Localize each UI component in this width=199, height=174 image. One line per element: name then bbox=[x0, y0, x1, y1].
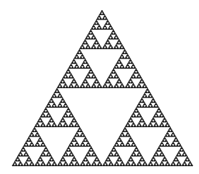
sierpinski-triangle-figure bbox=[0, 0, 199, 174]
fractal-triangles bbox=[12, 10, 193, 166]
